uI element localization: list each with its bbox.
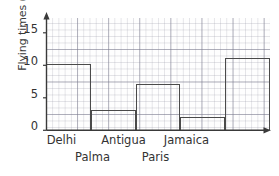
bar-delhi [46, 64, 91, 130]
y-tick-label-5: 5 [14, 89, 38, 99]
y-tick-label-15: 15 [14, 24, 38, 34]
x-label-paris: Paris [130, 150, 181, 164]
x-label-palma: Palma [67, 150, 118, 164]
bar-series [46, 18, 270, 130]
x-label-delhi: Delhi [36, 133, 87, 147]
bar-paris [180, 117, 225, 130]
x-axis-tick-labels: Delhi Palma Antigua Paris Jamaica [46, 131, 270, 176]
x-label-antigua: Antigua [94, 133, 153, 147]
y-tick-label-0: 0 [14, 121, 38, 131]
bar-jamaica [225, 58, 270, 130]
y-axis-tick-labels: 15 10 5 0 [14, 0, 38, 176]
y-tick-label-10: 10 [14, 56, 38, 66]
x-label-jamaica: Jamaica [157, 133, 216, 147]
bar-chart: Flying times (h) 15 10 5 0 Delhi Palma A… [0, 0, 279, 176]
bar-palma [91, 110, 136, 130]
bar-antigua [136, 84, 181, 130]
